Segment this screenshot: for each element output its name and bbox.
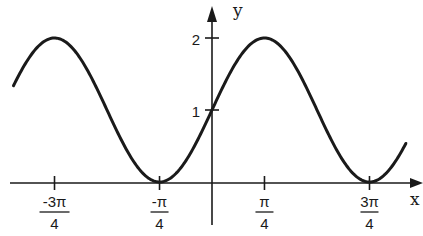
x-axis-label: x bbox=[410, 189, 420, 209]
x-tick-numerator: 3π bbox=[360, 193, 379, 210]
y-tick-label: 2 bbox=[192, 31, 200, 48]
y-axis-arrow-icon bbox=[207, 6, 217, 22]
sine-plot: y x -3π4-π4π43π4 12 bbox=[0, 0, 423, 236]
x-tick-denominator: 4 bbox=[365, 215, 373, 232]
chart-root: y x -3π4-π4π43π4 12 bbox=[0, 0, 423, 236]
x-tick-numerator: π bbox=[259, 193, 269, 210]
y-axis-label: y bbox=[232, 0, 243, 20]
y-tick-label: 1 bbox=[192, 103, 200, 120]
x-tick-denominator: 4 bbox=[155, 215, 163, 232]
x-tick-denominator: 4 bbox=[50, 215, 58, 232]
x-ticks: -3π4-π4π43π4 bbox=[40, 176, 379, 232]
x-axis-arrow-icon bbox=[410, 178, 423, 188]
x-tick-numerator: -3π bbox=[43, 193, 67, 210]
x-tick-denominator: 4 bbox=[260, 215, 268, 232]
x-tick-numerator: -π bbox=[152, 193, 167, 210]
